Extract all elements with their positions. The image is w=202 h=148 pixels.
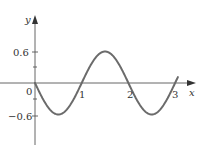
x-axis-arrow-icon [187,80,196,86]
x-tick-label-3: 3 [172,89,178,100]
y-axis-arrow-icon [32,15,38,24]
origin-label: 0 [26,86,32,97]
x-axis-label: x [189,87,195,98]
x-tick-label-1: 1 [79,89,85,100]
y-tick-label-minus-0.6: −0.6 [8,111,32,122]
sine-chart: y x 0.6 −0.6 0 1 2 3 [0,0,202,148]
x-tick-label-2: 2 [127,89,133,100]
y-axis-label: y [24,14,31,25]
y-tick-label-0.6: 0.6 [13,47,29,58]
